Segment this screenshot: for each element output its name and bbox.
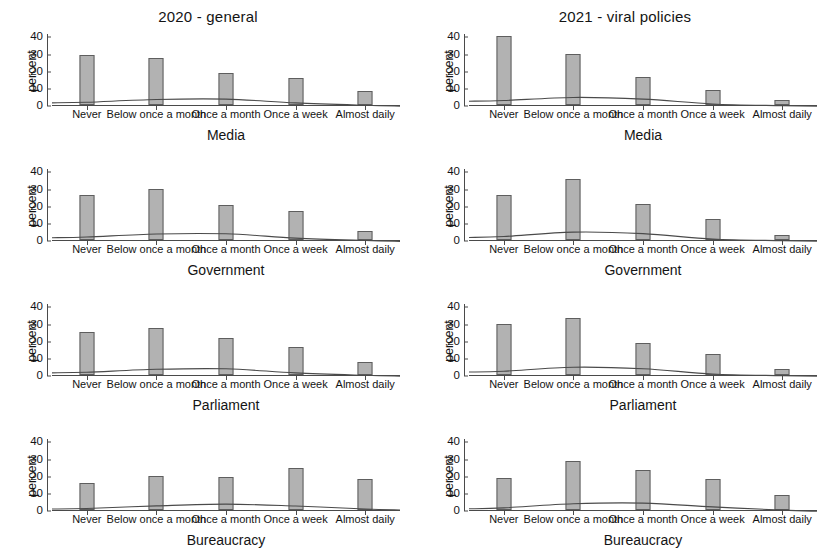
x-tick-label: Almost daily bbox=[336, 243, 395, 255]
y-axis: 010203040 bbox=[437, 169, 467, 241]
y-tick-mark bbox=[464, 358, 468, 359]
y-tick-mark bbox=[47, 307, 51, 308]
x-tick-label: Almost daily bbox=[336, 513, 395, 525]
y-tick-label: 20 bbox=[447, 66, 460, 78]
y-axis: 010203040 bbox=[20, 304, 50, 376]
x-tick-label: Almost daily bbox=[336, 378, 395, 390]
y-tick-mark bbox=[47, 341, 51, 342]
bar bbox=[636, 470, 651, 510]
y-tick-mark bbox=[464, 307, 468, 308]
panel-parliament-2021: percent010203040NeverBelow once a monthO… bbox=[417, 298, 833, 427]
y-tick-label: 30 bbox=[447, 184, 460, 196]
plot-area bbox=[52, 304, 400, 376]
column-title-2021: 2021 - viral policies bbox=[417, 8, 833, 25]
x-tick-label: Never bbox=[72, 108, 101, 120]
bar bbox=[79, 195, 94, 240]
plot-area bbox=[52, 169, 400, 241]
x-axis-title: Government bbox=[469, 262, 817, 278]
y-tick-mark bbox=[47, 223, 51, 224]
y-tick-label: 40 bbox=[30, 32, 43, 44]
y-tick-label: 0 bbox=[454, 235, 460, 247]
x-tick-label: Once a week bbox=[680, 378, 744, 390]
plot-area bbox=[52, 34, 400, 106]
y-tick-label: 10 bbox=[30, 83, 43, 95]
x-tick-label: Once a month bbox=[191, 513, 260, 525]
y-axis: 010203040 bbox=[437, 304, 467, 376]
y-tick-mark bbox=[464, 341, 468, 342]
y-axis-line bbox=[47, 439, 48, 511]
x-tick-label: Once a week bbox=[680, 108, 744, 120]
x-axis-title: Bureaucracy bbox=[469, 532, 817, 548]
panel-media-2021: percent010203040NeverBelow once a monthO… bbox=[417, 28, 833, 157]
bar bbox=[566, 318, 581, 375]
bar bbox=[288, 211, 303, 240]
y-tick-label: 10 bbox=[447, 218, 460, 230]
y-tick-label: 10 bbox=[447, 488, 460, 500]
y-tick-label: 40 bbox=[30, 437, 43, 449]
y-axis: 010203040 bbox=[20, 169, 50, 241]
y-tick-label: 40 bbox=[447, 32, 460, 44]
bar bbox=[149, 476, 164, 510]
x-tick-label: Once a month bbox=[608, 108, 677, 120]
y-tick-mark bbox=[464, 189, 468, 190]
y-tick-label: 0 bbox=[37, 370, 43, 382]
x-tick-label: Once a week bbox=[263, 513, 327, 525]
panel-government-2021: percent010203040NeverBelow once a monthO… bbox=[417, 163, 833, 292]
panel-media-2020: percent010203040NeverBelow once a monthO… bbox=[0, 28, 416, 157]
plot-area bbox=[469, 34, 817, 106]
y-tick-label: 20 bbox=[30, 336, 43, 348]
x-tick-label: Once a month bbox=[191, 378, 260, 390]
y-tick-label: 40 bbox=[30, 302, 43, 314]
x-tick-label: Once a week bbox=[263, 378, 327, 390]
bar bbox=[288, 78, 303, 105]
bar bbox=[288, 347, 303, 375]
x-tick-label: Never bbox=[489, 243, 518, 255]
bar bbox=[79, 55, 94, 105]
y-tick-label: 0 bbox=[37, 100, 43, 112]
x-tick-label-row: NeverBelow once a monthOnce a monthOnce … bbox=[52, 108, 400, 124]
y-tick-label: 10 bbox=[30, 218, 43, 230]
y-axis-line bbox=[464, 169, 465, 241]
y-tick-label: 20 bbox=[30, 66, 43, 78]
y-tick-label: 10 bbox=[447, 353, 460, 365]
x-tick-label: Once a month bbox=[191, 108, 260, 120]
x-tick-label: Once a week bbox=[680, 243, 744, 255]
bar bbox=[496, 478, 511, 510]
y-tick-mark bbox=[47, 189, 51, 190]
y-tick-label: 20 bbox=[447, 471, 460, 483]
y-tick-mark bbox=[47, 511, 51, 512]
y-tick-mark bbox=[47, 493, 51, 494]
y-tick-mark bbox=[47, 106, 51, 107]
bar bbox=[149, 328, 164, 375]
x-tick-label: Never bbox=[489, 513, 518, 525]
x-tick-label: Almost daily bbox=[336, 108, 395, 120]
y-tick-label: 0 bbox=[37, 235, 43, 247]
bar bbox=[219, 205, 234, 240]
bar bbox=[496, 195, 511, 240]
y-tick-mark bbox=[464, 106, 468, 107]
y-tick-mark bbox=[464, 54, 468, 55]
bar bbox=[358, 231, 373, 240]
y-tick-mark bbox=[464, 88, 468, 89]
y-axis: 010203040 bbox=[20, 439, 50, 511]
y-tick-label: 30 bbox=[30, 49, 43, 61]
bar bbox=[79, 483, 94, 510]
bar bbox=[705, 90, 720, 105]
x-tick-label: Never bbox=[72, 378, 101, 390]
panel-bureaucracy-2021: percent010203040NeverBelow once a monthO… bbox=[417, 433, 833, 552]
y-tick-mark bbox=[47, 459, 51, 460]
bar bbox=[636, 77, 651, 105]
y-tick-label: 20 bbox=[447, 201, 460, 213]
y-axis: 010203040 bbox=[437, 34, 467, 106]
x-tick-label-row: NeverBelow once a monthOnce a monthOnce … bbox=[469, 243, 817, 259]
y-tick-mark bbox=[464, 459, 468, 460]
y-tick-mark bbox=[464, 37, 468, 38]
y-tick-label: 30 bbox=[447, 319, 460, 331]
x-axis-title: Media bbox=[52, 127, 400, 143]
y-tick-mark bbox=[47, 206, 51, 207]
x-tick-label: Once a month bbox=[608, 243, 677, 255]
y-tick-label: 20 bbox=[30, 471, 43, 483]
y-tick-mark bbox=[47, 324, 51, 325]
bar bbox=[566, 461, 581, 510]
x-tick-label-row: NeverBelow once a monthOnce a monthOnce … bbox=[469, 378, 817, 394]
